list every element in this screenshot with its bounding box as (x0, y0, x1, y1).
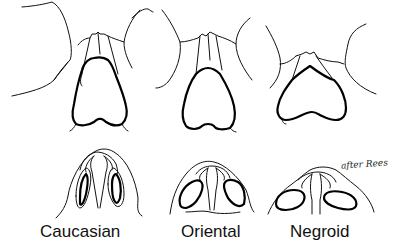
caucasian-nasal-bone-mid (98, 33, 100, 54)
negroid-piriform-aperture (277, 66, 346, 120)
line-drawing (0, 0, 399, 249)
nasal-anatomy-figure: Caucasian Oriental Negroid after Rees (0, 0, 399, 249)
oriental-nasal-bone-mid (208, 34, 210, 60)
negroid-left-orbit (266, 26, 281, 88)
negroid-skeletal-view (266, 24, 376, 124)
oriental-tip-outline (196, 166, 230, 178)
caucasian-right-orbit (124, 10, 140, 68)
caucasian-basal-view (56, 149, 142, 218)
caucasian-skeletal-view (12, 2, 140, 131)
oriental-basal-view (170, 161, 254, 214)
negroid-right-orbit (345, 24, 376, 94)
caucasian-nasal-bones (78, 32, 124, 45)
caucasian-piriform-aperture (73, 57, 127, 125)
caucasian-left-orbit-notch (54, 62, 68, 80)
negroid-basal-view (268, 167, 374, 214)
panel-label-caucasian: Caucasian (40, 222, 120, 242)
oriental-left-orbit (132, 9, 180, 88)
oriental-right-orbit (236, 18, 252, 80)
oriental-left-nostril (180, 180, 203, 208)
oriental-piriform-aperture (183, 68, 235, 129)
panel-label-negroid: Negroid (290, 222, 350, 242)
negroid-right-nostril (324, 191, 356, 209)
caucasian-ala-outline (56, 149, 142, 218)
oriental-spine (230, 128, 236, 132)
negroid-ala-outline (268, 167, 374, 214)
negroid-left-zygoma (280, 56, 296, 64)
negroid-left-nostril (276, 190, 305, 210)
negroid-tip-outline (298, 172, 336, 182)
caucasian-left-orbit (12, 2, 71, 96)
caucasian-columella (91, 156, 108, 208)
caucasian-spine-right (122, 124, 128, 131)
caucasian-right-nostril (112, 174, 121, 203)
oriental-columella (207, 168, 218, 210)
oriental-skeletal-view (132, 9, 252, 132)
negroid-columella (311, 174, 322, 214)
oriental-nasal-bone-right (216, 36, 222, 70)
oriental-base-line (186, 211, 240, 213)
oriental-nasal-bone-left (196, 36, 200, 74)
panel-label-oriental: Oriental (181, 222, 241, 242)
caucasian-spine-left (70, 124, 76, 131)
